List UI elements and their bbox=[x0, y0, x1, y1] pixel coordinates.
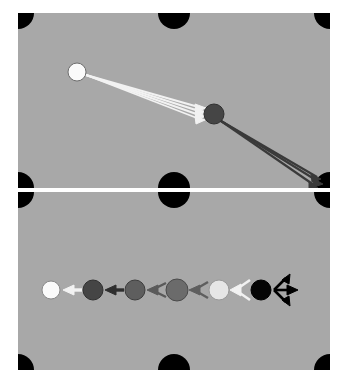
node-3-gray bbox=[125, 280, 145, 300]
panel-bottom-canvas bbox=[18, 192, 330, 370]
panel-top-trajectory bbox=[18, 13, 330, 188]
node-2-darkgray bbox=[83, 280, 103, 300]
node-6-black bbox=[251, 280, 271, 300]
panel-top-canvas bbox=[18, 13, 330, 188]
panel-bottom-sequence bbox=[18, 192, 330, 370]
node-source-white bbox=[68, 63, 86, 81]
figure-root bbox=[0, 0, 346, 384]
node-1-white bbox=[42, 281, 60, 299]
node-5-lightgray bbox=[209, 280, 229, 300]
node-4-midgray bbox=[166, 279, 188, 301]
panel-stack bbox=[18, 13, 330, 370]
node-hub-dark bbox=[204, 104, 224, 124]
